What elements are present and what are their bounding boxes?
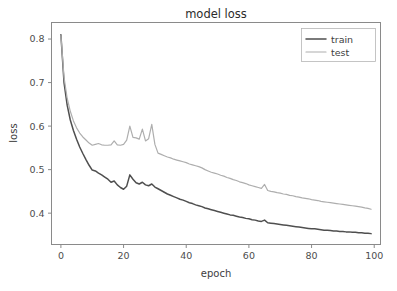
x-tick-label: 60 — [243, 250, 255, 261]
chart-title: model loss — [185, 7, 247, 21]
y-tick-label: 0.4 — [29, 208, 44, 219]
x-tick-label: 20 — [118, 250, 130, 261]
model-loss-line-chart: model loss 0.40.50.60.70.8 020406080100 … — [0, 0, 397, 291]
y-tick-label: 0.7 — [29, 77, 44, 88]
y-tick-label: 0.8 — [29, 33, 44, 44]
chart-figure: model loss 0.40.50.60.70.8 020406080100 … — [0, 0, 397, 291]
chart-legend: train test — [302, 29, 376, 62]
legend-label-train: train — [331, 34, 353, 45]
x-tick-label: 100 — [365, 250, 383, 261]
y-tick-label: 0.5 — [29, 164, 44, 175]
y-axis-label: loss — [8, 123, 19, 142]
x-tick-label: 80 — [306, 250, 318, 261]
legend-label-test: test — [331, 47, 350, 58]
x-axis-label: epoch — [201, 268, 231, 279]
x-tick-label: 0 — [58, 250, 64, 261]
x-tick-label: 40 — [180, 250, 192, 261]
y-tick-label: 0.6 — [29, 121, 44, 132]
